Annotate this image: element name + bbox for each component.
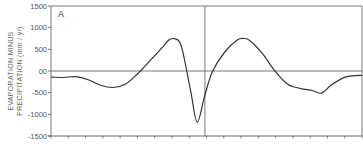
data-series (51, 38, 362, 122)
y-tick-label: 00 (39, 67, 47, 76)
reference-lines (51, 6, 362, 136)
x-axis (48, 136, 362, 139)
y-tick-label: 500 (34, 45, 47, 54)
y-axis-title-line2: PRECIPITATION (mm / yr) (16, 26, 24, 115)
y-tick-label: -1500 (28, 132, 47, 141)
line-chart: EVAPORATION MINUSPRECIPITATION (mm / yr)… (0, 0, 363, 163)
y-tick-label: -1000 (28, 110, 47, 119)
panel-label: A (58, 9, 64, 19)
y-axis-title: EVAPORATION MINUSPRECIPITATION (mm / yr) (7, 26, 24, 115)
y-tick-label: -500 (32, 88, 47, 97)
chart-container: EVAPORATION MINUSPRECIPITATION (mm / yr)… (0, 0, 363, 163)
y-tick-label: 1000 (30, 23, 47, 32)
y-axis-title-line1: EVAPORATION MINUS (7, 31, 14, 110)
y-axis: 1500100050000-500-1000-1500 (28, 2, 51, 141)
series-line (51, 38, 362, 122)
y-tick-label: 1500 (30, 2, 47, 11)
